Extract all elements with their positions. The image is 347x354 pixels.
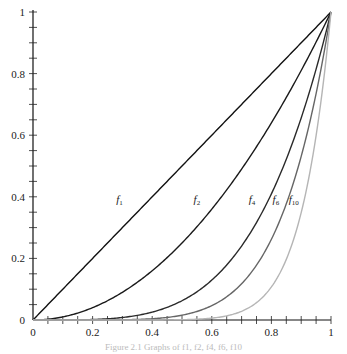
label-f6: f6 bbox=[273, 193, 280, 207]
curve-f1 bbox=[33, 12, 331, 320]
x-tick-label: 1 bbox=[328, 326, 334, 338]
x-tick-label: 0.8 bbox=[265, 326, 279, 338]
label-f4: f4 bbox=[249, 193, 256, 207]
axes: 00.20.40.60.8100.20.40.60.81 bbox=[11, 6, 334, 338]
y-tick-label: 0.8 bbox=[11, 68, 25, 80]
x-tick-label: 0.4 bbox=[145, 326, 159, 338]
y-tick-label: 0.6 bbox=[11, 129, 25, 141]
power-curves-chart: 00.20.40.60.8100.20.40.60.81 f1f2f4f6f10 bbox=[0, 0, 347, 354]
y-tick-label: 1 bbox=[20, 6, 26, 18]
x-tick-label: 0.2 bbox=[86, 326, 100, 338]
x-tick-label: 0.6 bbox=[205, 326, 219, 338]
curves bbox=[33, 12, 331, 320]
label-f1: f1 bbox=[116, 193, 123, 207]
label-f10: f10 bbox=[289, 193, 300, 207]
label-f2: f2 bbox=[194, 193, 201, 207]
figure-caption: Figure 2.1 Graphs of f1, f2, f4, f6, f10 bbox=[0, 342, 347, 352]
y-tick-label: 0.4 bbox=[11, 191, 25, 203]
x-tick-label: 0 bbox=[30, 326, 36, 338]
y-tick-label: 0.2 bbox=[11, 252, 25, 264]
y-tick-label: 0 bbox=[20, 314, 26, 326]
